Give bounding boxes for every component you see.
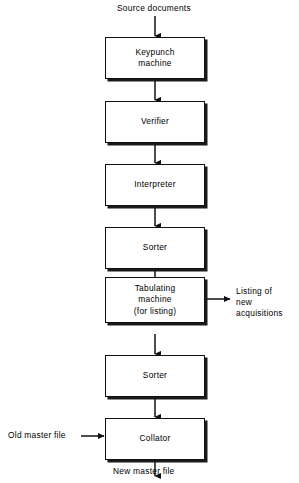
node-sorter-first[interactable]: Sorter xyxy=(105,227,205,269)
node-sorter-second-line-1: Sorter xyxy=(143,370,167,382)
node-tabulating-machine-line-3: (for listing) xyxy=(134,306,176,318)
node-verifier[interactable]: Verifier xyxy=(105,101,205,143)
node-collator-line-1: Collator xyxy=(140,433,171,445)
node-keypunch-machine-line-1: Keypunch xyxy=(135,47,174,59)
node-keypunch-machine[interactable]: Keypunch machine xyxy=(105,37,205,79)
node-sorter-first-line-1: Sorter xyxy=(143,242,167,254)
flowchart-diagram: Source documents Listing of new acquisit… xyxy=(0,0,299,483)
node-keypunch-machine-line-2: machine xyxy=(138,58,171,70)
node-tabulating-machine[interactable]: Tabulating machine (for listing) xyxy=(105,277,205,323)
listing-line-2: new xyxy=(236,297,298,308)
node-interpreter[interactable]: Interpreter xyxy=(105,164,205,206)
node-tabulating-machine-line-2: machine xyxy=(138,294,171,306)
caption-new-master-file: New master file xyxy=(113,466,174,477)
node-sorter-second[interactable]: Sorter xyxy=(105,355,205,397)
caption-listing-of-new-acquisitions: Listing of new acquisitions xyxy=(236,286,298,320)
node-tabulating-machine-line-1: Tabulating xyxy=(135,283,176,295)
node-verifier-line-1: Verifier xyxy=(141,116,169,128)
caption-old-master-file: Old master file xyxy=(8,430,66,441)
node-collator[interactable]: Collator xyxy=(105,418,205,460)
caption-source-documents: Source documents xyxy=(117,3,191,14)
node-interpreter-line-1: Interpreter xyxy=(134,179,175,191)
listing-line-3: acquisitions xyxy=(236,308,298,319)
listing-line-1: Listing of xyxy=(236,286,298,297)
